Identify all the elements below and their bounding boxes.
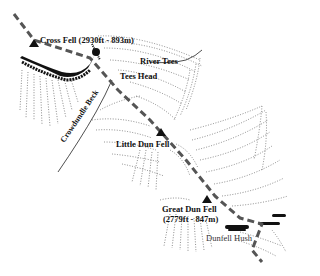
label-little-dun-fell: Little Dun Fell: [116, 140, 169, 149]
label-tees-head: Tees Head: [120, 72, 157, 81]
label-river-tees: River Tees: [140, 57, 178, 66]
label-cross-fell: Cross Fell (2930ft - 893m): [40, 36, 134, 45]
summit-marker-great-dun-fell: [202, 195, 212, 203]
dunfell-hush-shading: [225, 214, 286, 231]
label-great-dun-fell: Great Dun Fell: [162, 205, 217, 214]
label-great-dun-fell-elevation: (2779ft - 847m): [163, 215, 218, 224]
label-dunfell-hush: Dunfell Hush: [206, 234, 252, 243]
